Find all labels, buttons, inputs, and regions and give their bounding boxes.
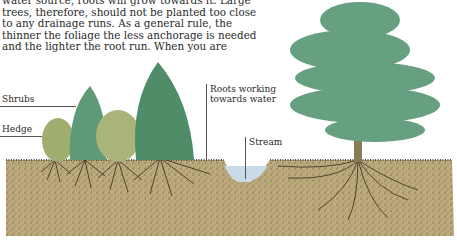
- label-roots-line2: towards water: [210, 94, 276, 104]
- label-hedge: Hedge: [2, 124, 32, 134]
- leader-line-hedge: [0, 136, 42, 137]
- leader-line-stream: [245, 137, 246, 179]
- conifer-tree: [135, 62, 194, 160]
- leader-line-roots: [206, 84, 207, 160]
- root-system-illustration: [0, 0, 457, 243]
- label-roots-line1: Roots working: [210, 84, 276, 94]
- leader-line-shrubs: [0, 106, 76, 107]
- tree-canopy: [290, 2, 440, 142]
- hedge-shrub: [42, 118, 74, 162]
- label-stream: Stream: [249, 137, 282, 147]
- label-shrubs: Shrubs: [2, 94, 34, 104]
